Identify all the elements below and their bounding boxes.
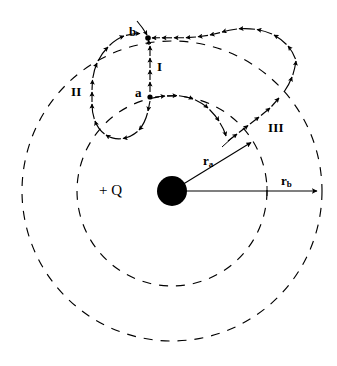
path-III-label: III bbox=[268, 121, 284, 134]
radius-rb-label-base: r bbox=[281, 173, 287, 188]
electric-field-paths-diagram: + Q a b I II III ra rb bbox=[0, 0, 337, 366]
point-b-dot bbox=[145, 35, 151, 41]
charge-label: + Q bbox=[99, 183, 122, 198]
point-a-label: a bbox=[135, 86, 142, 99]
path-II bbox=[92, 21, 150, 139]
radius-ra-label-base: r bbox=[203, 153, 209, 168]
point-b-label: b bbox=[129, 25, 136, 38]
radius-rb-label-sub: b bbox=[287, 179, 292, 189]
point-charge-dot bbox=[157, 176, 187, 206]
path-I-label: I bbox=[157, 60, 162, 73]
radius-ra-label: ra bbox=[203, 154, 213, 167]
path-II-label: II bbox=[71, 85, 82, 98]
path-I bbox=[149, 40, 151, 92]
radius-ra-label-sub: a bbox=[209, 159, 214, 169]
point-a-dot bbox=[147, 94, 152, 99]
radius-rb-label: rb bbox=[281, 174, 292, 187]
